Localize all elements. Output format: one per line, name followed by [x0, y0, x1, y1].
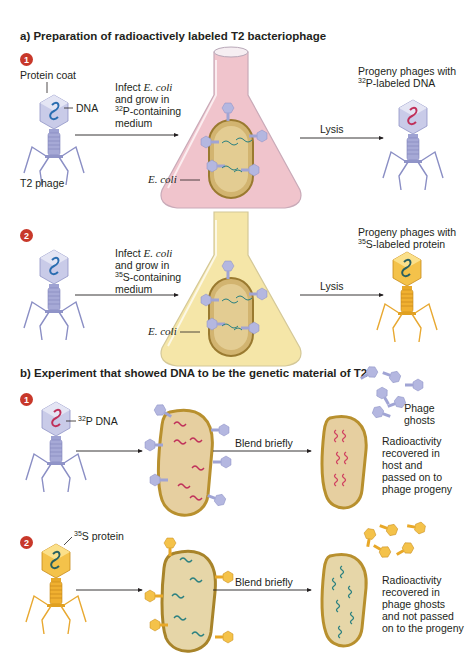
result-text-b2: Radioactivity recovered in phage ghosts …: [382, 574, 464, 634]
infected-cell-35s-icon: [145, 538, 233, 651]
result-cell-35s-icon: [322, 555, 366, 646]
blend-label-b2: Blend briefly: [235, 576, 293, 588]
phage-35s-icon: [26, 544, 86, 634]
s35-protein-label: 35S protein: [74, 530, 124, 542]
part-b-step2-graphics: [0, 0, 471, 665]
phage-ghosts-gold-icon: [362, 520, 426, 560]
